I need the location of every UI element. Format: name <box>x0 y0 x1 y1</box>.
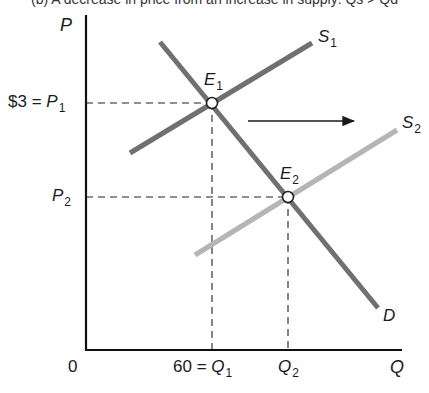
demand-curve-label: D <box>383 307 395 324</box>
price-p2-label: P2 <box>52 187 71 204</box>
e2-label: E2 <box>280 165 299 182</box>
e1-label: E1 <box>204 71 223 88</box>
axes <box>85 15 402 351</box>
reference-dashed-lines <box>86 103 288 350</box>
origin-label: 0 <box>68 358 77 375</box>
x-axis-label: Q <box>390 358 404 376</box>
quantity-q2-label: Q2 <box>278 358 299 375</box>
y-axis-label: P <box>60 16 72 34</box>
quantity-q1-label: 60 = Q1 <box>173 358 232 375</box>
s2-curve <box>195 130 397 255</box>
d-curve <box>160 42 378 308</box>
price-p1-label: $3 = P1 <box>8 93 65 110</box>
s1-curve <box>130 43 312 153</box>
s2-curve-label: S2 <box>402 114 421 131</box>
e2-point <box>283 192 294 203</box>
s1-curve-label: S1 <box>318 28 337 45</box>
curves <box>130 42 397 308</box>
e1-point <box>207 98 218 109</box>
